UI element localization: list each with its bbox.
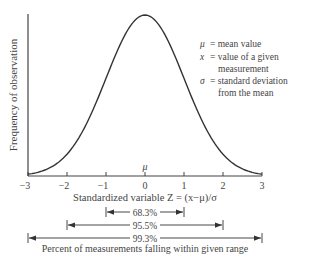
x-tick-label: 1 (182, 180, 187, 191)
legend-sigma-symbol: σ (200, 76, 205, 86)
range-bracket-955: 95.5% (67, 220, 223, 231)
x-tick-label: −1 (98, 180, 109, 191)
x-tick-label: 0 (143, 180, 148, 191)
range-label: 99.3% (133, 234, 158, 244)
legend-mu-text: = mean value (210, 39, 261, 49)
y-axis-label: Frequency of observation (7, 38, 19, 151)
x-axis-ticks: −3−2−10123 (20, 172, 265, 191)
legend-sigma-cont: from the mean (218, 88, 274, 98)
range-brackets: 68.3%95.5%99.3% (28, 207, 262, 244)
range-bracket-683: 68.3% (106, 207, 184, 218)
legend: μ = mean value x = value of a given meas… (199, 39, 288, 98)
range-caption: Percent of measurements falling within g… (42, 243, 249, 254)
legend-x-symbol: x (199, 52, 205, 62)
range-label: 68.3% (133, 208, 158, 218)
normal-distribution-figure: Frequency of observation −3−2−10123 μ St… (0, 0, 309, 266)
range-label: 95.5% (133, 221, 158, 231)
x-tick-label: −2 (59, 180, 70, 191)
x-tick-label: 2 (221, 180, 226, 191)
x-axis-label: Standardized variable Z = (x−μ)/σ (73, 192, 217, 204)
legend-mu-symbol: μ (199, 39, 205, 49)
x-tick-label: −3 (20, 180, 31, 191)
legend-sigma-text: = standard deviation (210, 76, 288, 86)
mu-label: μ (141, 161, 147, 172)
x-tick-label: 3 (260, 180, 265, 191)
legend-x-text: = value of a given (210, 52, 279, 62)
range-bracket-993: 99.3% (28, 233, 262, 244)
legend-x-cont: measurement (218, 64, 269, 74)
